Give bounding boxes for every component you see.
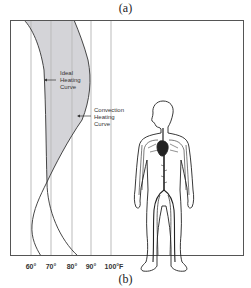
convection-label: Convection Heating Curve	[94, 107, 126, 127]
heating-curve-diagram: Ideal Heating Curve Convection Heating C…	[0, 0, 251, 288]
tick-70: 70°	[46, 263, 57, 270]
tick-90: 90°	[86, 263, 97, 270]
shaded-difference-region	[24, 20, 90, 182]
x-axis-ticks: 60° 70° 80° 90° 100°F	[26, 263, 124, 270]
tick-100f: 100°F	[105, 263, 124, 270]
tick-80: 80°	[67, 263, 78, 270]
caption-b: (b)	[0, 272, 251, 287]
human-circulatory-figure-icon	[134, 101, 193, 271]
tick-60: 60°	[26, 263, 37, 270]
